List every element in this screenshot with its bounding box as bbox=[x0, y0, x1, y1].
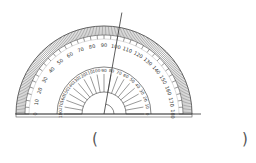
outer-scale-label: 40 bbox=[47, 66, 56, 75]
hatch-tick bbox=[21, 84, 29, 87]
inner-spoke bbox=[78, 83, 90, 97]
hatch-tick bbox=[89, 27, 91, 36]
hatch-tick bbox=[95, 26, 96, 35]
inner-spoke bbox=[118, 83, 130, 97]
outer-scale-label: 160 bbox=[164, 85, 173, 96]
degree-tick bbox=[30, 87, 34, 88]
hatch-tick bbox=[116, 27, 117, 36]
hatch-tick bbox=[111, 26, 112, 35]
answer-blank[interactable] bbox=[104, 132, 239, 150]
degree-tick bbox=[169, 75, 172, 77]
degree-tick bbox=[43, 63, 46, 66]
degree-tick bbox=[32, 81, 36, 83]
inner-scale-label: 40 bbox=[134, 82, 141, 90]
degree-tick bbox=[136, 42, 138, 46]
hatch-tick bbox=[16, 106, 25, 107]
degree-tick bbox=[39, 69, 42, 71]
hatch-tick bbox=[130, 31, 133, 40]
hatch-tick bbox=[75, 31, 78, 40]
hatch-tick bbox=[177, 81, 185, 84]
outer-scale-label: 50 bbox=[56, 57, 65, 66]
outer-scale-label: 110 bbox=[122, 45, 133, 54]
hatch-tick bbox=[183, 106, 192, 107]
outer-scale-label: 120 bbox=[133, 50, 144, 60]
outer-scale-label: 80 bbox=[88, 43, 95, 50]
hatch-tick bbox=[110, 26, 111, 35]
inner-scale-label: 60 bbox=[122, 73, 129, 80]
degree-tick bbox=[59, 49, 61, 52]
inner-spoke bbox=[112, 76, 118, 93]
degree-tick bbox=[26, 100, 30, 101]
hatch-tick bbox=[178, 84, 186, 87]
hatch-tick bbox=[16, 105, 25, 106]
hatch-tick bbox=[17, 100, 26, 101]
degree-tick bbox=[123, 38, 124, 42]
outer-scale-label: 170 bbox=[168, 97, 176, 107]
hatch-tick bbox=[182, 100, 191, 101]
outer-scale-label: 90 bbox=[101, 42, 107, 48]
degree-tick bbox=[165, 69, 168, 71]
outer-scale-label: 130 bbox=[143, 56, 154, 67]
hatch-tick bbox=[71, 32, 74, 40]
inner-scale-label: 50 bbox=[129, 77, 137, 84]
degree-tick bbox=[53, 53, 56, 56]
hatch-tick bbox=[17, 102, 26, 103]
hatch-tick bbox=[112, 26, 113, 35]
hatch-tick bbox=[179, 85, 188, 88]
hatch-tick bbox=[178, 82, 186, 85]
angle-mark-arc bbox=[106, 104, 114, 114]
degree-tick bbox=[172, 81, 176, 83]
inner-spoke bbox=[125, 100, 142, 106]
hatch-tick bbox=[115, 27, 116, 36]
inner-spoke bbox=[65, 107, 83, 110]
hatch-tick bbox=[90, 27, 91, 36]
hatch-tick bbox=[183, 108, 192, 109]
hatch-tick bbox=[114, 27, 115, 36]
inner-spoke bbox=[73, 88, 87, 100]
outer-scale-label: 20 bbox=[36, 87, 44, 95]
inner-spoke bbox=[90, 76, 96, 93]
hatch-tick bbox=[128, 30, 131, 39]
hatch-tick bbox=[20, 87, 29, 90]
degree-tick bbox=[48, 58, 51, 61]
hatch-tick bbox=[16, 108, 25, 109]
degree-tick bbox=[77, 40, 78, 44]
protractor-base-strip bbox=[16, 114, 192, 117]
inner-scale-label: 20 bbox=[142, 96, 149, 103]
degree-tick bbox=[161, 63, 164, 66]
degree-tick bbox=[90, 36, 91, 40]
inner-spoke bbox=[97, 75, 100, 93]
degree-tick bbox=[152, 53, 155, 56]
inner-spoke bbox=[126, 107, 144, 110]
degree-tick bbox=[130, 40, 131, 44]
hatch-tick bbox=[93, 27, 94, 36]
degree-tick bbox=[71, 42, 73, 46]
inner-scale-label: 70 bbox=[116, 70, 123, 77]
degree-tick bbox=[174, 87, 178, 88]
hatch-tick bbox=[77, 30, 80, 39]
hatch-tick bbox=[74, 31, 77, 39]
outer-scale-label: 10 bbox=[33, 98, 40, 105]
inner-spoke bbox=[123, 94, 139, 103]
outer-scale-label: 140 bbox=[151, 64, 162, 75]
hatch-tick bbox=[22, 81, 30, 84]
outer-scale-label: 60 bbox=[65, 50, 74, 58]
hatch-tick bbox=[96, 26, 97, 35]
hatch-tick bbox=[72, 32, 75, 40]
inner-scale-label: 10 bbox=[144, 103, 150, 109]
hatch-tick bbox=[182, 103, 191, 104]
hatch-tick bbox=[131, 31, 134, 39]
degree-tick bbox=[84, 38, 85, 42]
hatch-tick bbox=[132, 32, 135, 40]
answer-open-paren: ( bbox=[92, 132, 98, 147]
hatch-tick bbox=[134, 32, 137, 40]
inner-scale-label: 100 bbox=[92, 68, 101, 74]
hatch-tick bbox=[183, 105, 192, 106]
answer-close-paren: ) bbox=[242, 132, 248, 147]
degree-tick bbox=[28, 94, 32, 95]
inner-scale-label: 90 bbox=[101, 68, 107, 73]
outer-scale-label: 70 bbox=[77, 46, 85, 54]
degree-tick bbox=[36, 75, 39, 77]
degree-tick bbox=[65, 46, 67, 49]
hatch-tick bbox=[182, 99, 191, 101]
